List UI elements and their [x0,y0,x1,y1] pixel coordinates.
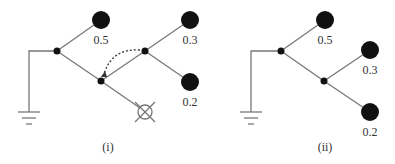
tree-diagrams [0,0,395,164]
leaf-label: 0.3 [183,33,198,48]
move-arrow [104,50,140,74]
leaf-label: 0.2 [183,95,198,110]
ground-wire [29,51,57,112]
leaf-label: 0.5 [94,33,109,48]
leaf-label: 0.3 [363,63,378,78]
caption: (i) [102,140,113,155]
caption: (ii) [318,140,333,155]
diagram-ii [240,20,370,124]
leaf-label: 0.2 [363,125,378,140]
leaf-label: 0.5 [318,33,333,48]
